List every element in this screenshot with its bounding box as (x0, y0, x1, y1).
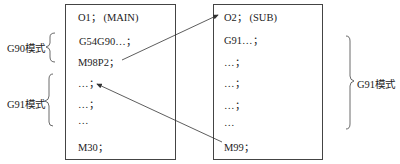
return-arrow (97, 84, 222, 142)
connector-graphics (0, 0, 400, 164)
call-arrow (122, 15, 218, 60)
g91-brace-right (346, 36, 354, 129)
g91-brace-left (45, 74, 53, 126)
g90-brace (46, 33, 55, 62)
